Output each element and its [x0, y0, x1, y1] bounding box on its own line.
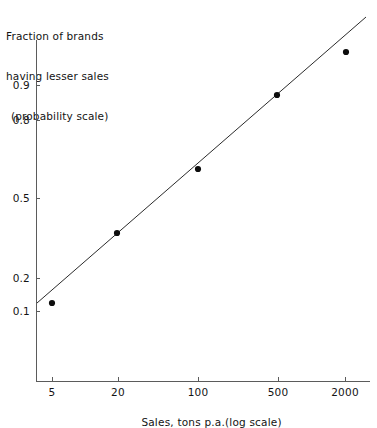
- x-tick-label: 2000: [331, 386, 359, 398]
- y-tick-label: 0.2: [13, 272, 30, 284]
- x-axis-title: Sales, tons p.a.(log scale): [0, 404, 377, 428]
- tick-marks: [36, 85, 345, 381]
- x-tick-label: 20: [111, 386, 125, 398]
- x-tick-label: 5: [49, 386, 56, 398]
- data-point: [343, 49, 349, 55]
- chart-container: Fraction of brands having lesser sales (…: [0, 0, 377, 428]
- y-axis-tick-labels: 0.90.80.50.20.1: [0, 0, 30, 428]
- data-point: [49, 300, 55, 306]
- data-point: [274, 92, 280, 98]
- y-tick-label: 0.5: [13, 192, 30, 204]
- data-point: [114, 230, 120, 236]
- fitted-line: [37, 17, 366, 303]
- y-tick-label: 0.8: [13, 114, 30, 126]
- y-tick-label: 0.9: [13, 79, 30, 91]
- x-axis-title-text: Sales, tons p.a.(log scale): [141, 416, 281, 428]
- data-point: [195, 166, 201, 172]
- axes: [36, 40, 370, 381]
- data-points: [49, 49, 349, 306]
- fit-line: [37, 17, 366, 303]
- x-tick-label: 500: [268, 386, 289, 398]
- y-tick-label: 0.1: [13, 305, 30, 317]
- x-tick-label: 100: [188, 386, 209, 398]
- plot-area: [0, 0, 377, 428]
